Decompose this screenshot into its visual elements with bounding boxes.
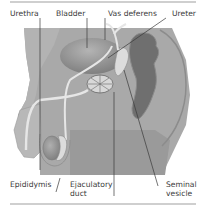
- penis: [14, 104, 42, 158]
- label-urethra: Urethra: [10, 9, 39, 18]
- label-bladder: Bladder: [56, 9, 85, 18]
- label-seminal-vesicle-line2: vesicle: [166, 189, 192, 198]
- label-seminal-vesicle-line1: Seminal: [166, 180, 197, 189]
- prostate: [87, 75, 113, 93]
- label-epididymis: Epididymis: [10, 180, 51, 189]
- label-ejaculatory-duct-line2: duct: [70, 189, 87, 198]
- label-ureter: Ureter: [172, 9, 196, 18]
- label-ejaculatory-duct-line1: Ejaculatory: [70, 180, 113, 189]
- label-vas-deferens: Vas deferens: [108, 9, 157, 18]
- reproductive-anatomy-illustration: [0, 0, 206, 209]
- bottom-rule: [10, 203, 196, 205]
